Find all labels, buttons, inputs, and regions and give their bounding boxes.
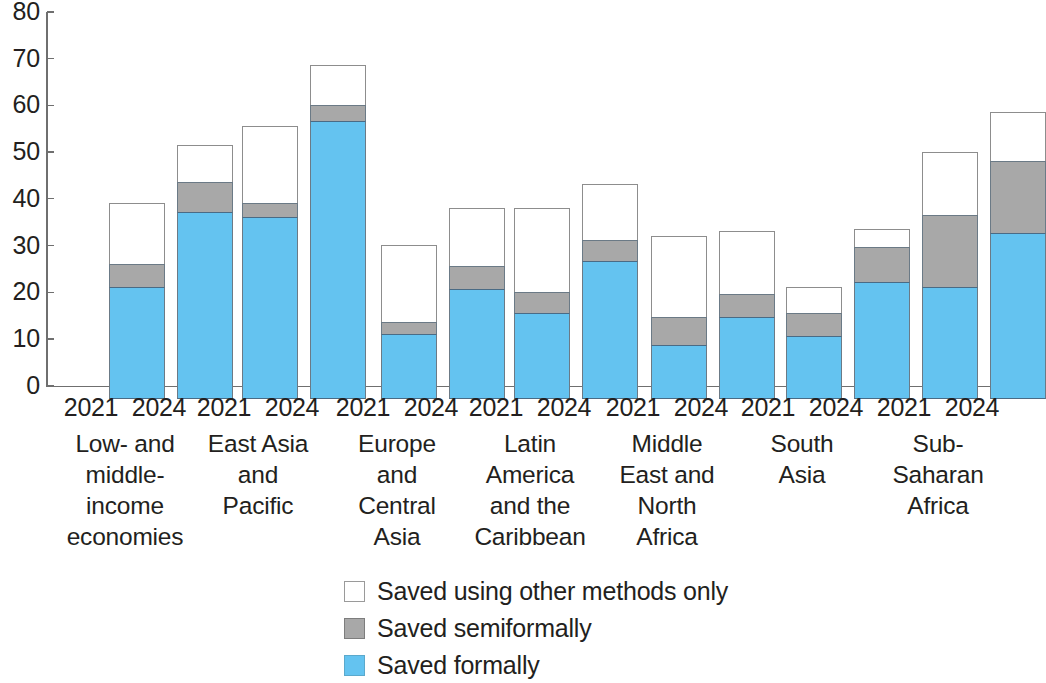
x-axis-category-label-line: economies: [30, 521, 220, 552]
stacked-bar[interactable]: [177, 145, 233, 400]
stacked-bar[interactable]: [651, 236, 707, 399]
stacked-bar[interactable]: [310, 65, 366, 399]
stacked-bar[interactable]: [242, 126, 298, 399]
x-axis-category-label-line: Sub-: [843, 428, 1033, 459]
bar-segment-saved-other-methods: [109, 203, 165, 264]
stacked-bar[interactable]: [854, 229, 910, 399]
bar-segment-saved-other-methods: [310, 65, 366, 105]
bar-segment-saved-formally: [310, 121, 366, 399]
bar-segment-saved-semiformally: [177, 182, 233, 212]
bar-segment-saved-semiformally: [990, 161, 1046, 233]
bar-segment-saved-other-methods: [990, 112, 1046, 161]
bar-segment-saved-formally: [381, 334, 437, 399]
x-axis-category-label-line: North: [572, 490, 762, 521]
stacked-bar[interactable]: [922, 152, 978, 399]
y-axis-tick-label: 70: [0, 46, 40, 71]
legend-item-label: Saved formally: [377, 651, 540, 679]
x-axis-year-label: 2024: [257, 392, 327, 422]
bar-segment-saved-other-methods: [381, 245, 437, 322]
bar-segment-saved-formally: [854, 282, 910, 399]
bar-group: [514, 24, 638, 399]
bar-group: [651, 24, 775, 399]
x-axis-year-label: 2024: [801, 392, 871, 422]
x-axis-year-label: 2021: [56, 392, 126, 422]
bar-segment-saved-other-methods: [719, 231, 775, 294]
stacked-bar[interactable]: [449, 208, 505, 399]
bar-group: [381, 24, 505, 399]
x-axis-year-label: 2024: [396, 392, 466, 422]
bar-segment-saved-formally: [719, 317, 775, 399]
x-axis-year-label: 2024: [124, 392, 194, 422]
bar-segment-saved-other-methods: [242, 126, 298, 203]
bar-segment-saved-formally: [109, 287, 165, 399]
x-axis-category-label-line: Africa: [843, 490, 1033, 521]
bar-segment-saved-semiformally: [381, 322, 437, 334]
y-axis-tick-label: 30: [0, 233, 40, 258]
legend-item[interactable]: Saved semiformally: [344, 611, 728, 645]
bar-segment-saved-other-methods: [177, 145, 233, 182]
bar-segment-saved-formally: [990, 233, 1046, 399]
bar-group: [242, 24, 366, 399]
x-axis-year-label: 2021: [598, 392, 668, 422]
bar-segment-saved-semiformally: [242, 203, 298, 217]
y-axis-tick-label: 10: [0, 326, 40, 351]
gray-square-icon: [344, 618, 365, 639]
bar-group: [786, 24, 910, 399]
legend-item-label: Saved using other methods only: [377, 577, 728, 605]
y-axis-tick-label: 40: [0, 186, 40, 211]
x-axis-year-label: 2021: [189, 392, 259, 422]
x-axis-year-label: 2021: [328, 392, 398, 422]
legend-item-label: Saved semiformally: [377, 614, 592, 642]
stacked-bar[interactable]: [514, 208, 570, 399]
x-axis-year-label: 2021: [869, 392, 939, 422]
y-axis-tick-label: 80: [0, 0, 40, 24]
stacked-bar[interactable]: [109, 203, 165, 399]
bar-segment-saved-formally: [449, 289, 505, 399]
legend-item[interactable]: Saved formally: [344, 648, 728, 682]
x-axis-year-label: 2021: [733, 392, 803, 422]
bar-segment-saved-formally: [242, 217, 298, 399]
bar-segment-saved-semiformally: [514, 292, 570, 313]
plot-area: [46, 12, 1011, 387]
bar-segment-saved-semiformally: [854, 247, 910, 282]
bar-segment-saved-semiformally: [719, 294, 775, 317]
x-axis-category-label: Sub-SaharanAfrica: [843, 428, 1033, 521]
bar-segment-saved-formally: [514, 313, 570, 399]
stacked-bar[interactable]: [719, 231, 775, 399]
stacked-bar[interactable]: [990, 112, 1046, 399]
x-axis-category-label-line: Saharan: [843, 459, 1033, 490]
bar-segment-saved-other-methods: [514, 208, 570, 292]
x-axis-year-label: 2024: [529, 392, 599, 422]
x-axis-year-label: 2024: [937, 392, 1007, 422]
stacked-bar[interactable]: [582, 184, 638, 399]
bar-segment-saved-semiformally: [449, 266, 505, 289]
x-axis-category-label-line: Africa: [572, 521, 762, 552]
stacked-bar[interactable]: [381, 245, 437, 399]
bar-segment-saved-other-methods: [582, 184, 638, 240]
bar-segment-saved-semiformally: [922, 215, 978, 287]
bar-segment-saved-semiformally: [786, 313, 842, 336]
bar-segment-saved-other-methods: [922, 152, 978, 215]
legend-item[interactable]: Saved using other methods only: [344, 574, 728, 608]
bar-segment-saved-formally: [786, 336, 842, 399]
bar-group: [922, 24, 1046, 399]
white-square-icon: [344, 581, 365, 602]
bar-segment-saved-semiformally: [310, 105, 366, 121]
bar-segment-saved-semiformally: [582, 240, 638, 261]
bar-segment-saved-other-methods: [854, 229, 910, 248]
bar-segment-saved-other-methods: [786, 287, 842, 313]
bar-segment-saved-semiformally: [109, 264, 165, 287]
blue-square-icon: [344, 655, 365, 676]
chart-legend: Saved using other methods onlySaved semi…: [344, 574, 728, 683]
y-axis-tick-label: 20: [0, 279, 40, 304]
bar-segment-saved-formally: [922, 287, 978, 399]
bar-segment-saved-formally: [651, 345, 707, 399]
stacked-bar[interactable]: [786, 287, 842, 399]
y-axis-tick-label: 60: [0, 92, 40, 117]
bar-group: [109, 24, 233, 399]
bar-segment-saved-other-methods: [449, 208, 505, 266]
bar-segment-saved-formally: [582, 261, 638, 399]
x-axis-year-label: 2021: [461, 392, 531, 422]
bar-segment-saved-formally: [177, 212, 233, 399]
